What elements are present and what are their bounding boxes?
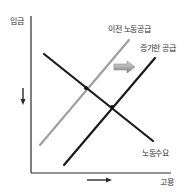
old-supply-curve: [40, 40, 129, 145]
wage-down-arrow-icon: [21, 88, 26, 105]
new-supply-label: 증가한 공급: [140, 45, 176, 53]
demand-curve: [44, 54, 153, 141]
x-axis-label: 고용: [160, 179, 173, 187]
y-axis-label: 임금: [10, 18, 23, 26]
old-supply-label: 이전 노동공급: [108, 26, 150, 34]
new-equilibrium-point: [110, 105, 114, 109]
employment-right-arrow-icon: [87, 178, 112, 183]
supply-shift-arrow-icon: [114, 61, 135, 73]
demand-label: 노동수요: [142, 150, 169, 158]
labor-market-diagram: [0, 0, 192, 193]
initial-equilibrium-point: [84, 86, 88, 90]
